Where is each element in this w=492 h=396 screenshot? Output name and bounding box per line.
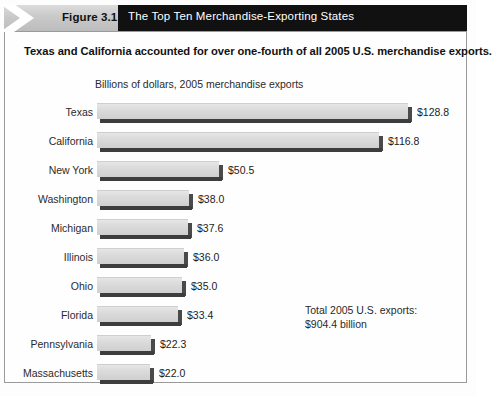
bar-value-label: $38.0	[198, 193, 224, 205]
figure-title: The Top Ten Merchandise-Exporting States	[128, 10, 354, 22]
bar	[97, 190, 189, 210]
bar-row: New York$50.5	[0, 158, 476, 187]
bar-chart: Texas$128.8California$116.8New York$50.5…	[0, 100, 476, 390]
bar	[97, 248, 184, 268]
bar-face	[97, 306, 178, 322]
bar-category-label: Illinois	[64, 251, 93, 263]
bar-category-label: Massachusetts	[23, 367, 93, 379]
bar-face	[97, 364, 150, 380]
bar	[97, 306, 178, 326]
bar	[97, 277, 182, 297]
bar-category-label: Ohio	[71, 280, 93, 292]
bar-value-label: $50.5	[228, 164, 254, 176]
bar	[97, 219, 188, 239]
annotation-line-1: Total 2005 U.S. exports:	[305, 303, 417, 317]
bar-row: Illinois$36.0	[0, 245, 476, 274]
bar-value-label: $35.0	[191, 280, 217, 292]
figure-number-label: Figure 3.1	[62, 11, 117, 23]
bar-row: Pennsylvania$22.3	[0, 332, 476, 361]
bar-row: Massachusetts$22.0	[0, 361, 476, 390]
bar-face	[97, 161, 219, 177]
bar-face	[97, 190, 189, 206]
bar-row: Texas$128.8	[0, 100, 476, 129]
bar-category-label: Michigan	[51, 222, 93, 234]
bar-value-label: $33.4	[187, 309, 213, 321]
bar-face	[97, 248, 184, 264]
bar-face	[97, 335, 151, 351]
bar	[97, 161, 219, 181]
bar-value-label: $22.3	[160, 338, 186, 350]
figure-header: Figure 3.1 The Top Ten Merchandise-Expor…	[4, 5, 467, 31]
bar-category-label: Texas	[66, 106, 93, 118]
annotation-line-2: $904.4 billion	[305, 317, 417, 331]
bar-value-label: $37.6	[197, 222, 223, 234]
bar-face	[97, 219, 188, 235]
bar-face	[97, 277, 182, 293]
bar-row: California$116.8	[0, 129, 476, 158]
bar-row: Washington$38.0	[0, 187, 476, 216]
bar-category-label: New York	[49, 164, 93, 176]
figure-subtitle: Texas and California accounted for over …	[24, 45, 492, 57]
bar-category-label: Pennsylvania	[31, 338, 93, 350]
bar-category-label: California	[49, 135, 93, 147]
bar-value-label: $36.0	[193, 251, 219, 263]
bar-category-label: Washington	[38, 193, 93, 205]
bar-row: Michigan$37.6	[0, 216, 476, 245]
bar-value-label: $22.0	[159, 367, 185, 379]
bar-value-label: $128.8	[417, 106, 449, 118]
bar-category-label: Florida	[61, 309, 93, 321]
bar	[97, 335, 151, 355]
bar-row: Ohio$35.0	[0, 274, 476, 303]
bar	[97, 132, 379, 152]
bar-value-label: $116.8	[388, 135, 419, 147]
axis-unit-caption: Billions of dollars, 2005 merchandise ex…	[95, 78, 303, 90]
chevron-right-icon	[0, 4, 46, 32]
total-exports-annotation: Total 2005 U.S. exports: $904.4 billion	[305, 303, 417, 331]
bar	[97, 364, 150, 384]
bar	[97, 103, 408, 123]
bar-face	[97, 103, 408, 119]
bar-face	[97, 132, 379, 148]
